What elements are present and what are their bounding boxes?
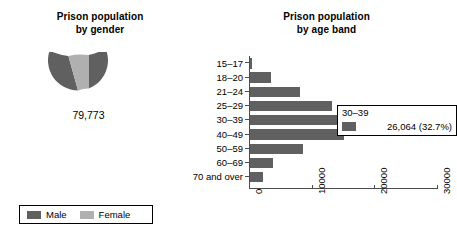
x-tick xyxy=(374,185,375,189)
tooltip-title: 30–39 xyxy=(342,107,368,118)
gender-donut-chart: 79,773 xyxy=(22,52,155,185)
bar-tooltip: 30–39 26,064 (32.7%) xyxy=(337,105,457,136)
x-axis-line xyxy=(249,188,437,189)
gender-chart-title: Prison population by gender xyxy=(0,11,200,36)
tooltip-swatch xyxy=(342,122,356,131)
x-tick xyxy=(437,185,438,189)
bar[interactable] xyxy=(250,87,300,97)
age-chart-title-line2: by age band xyxy=(196,24,457,37)
category-tick xyxy=(245,176,249,177)
gender-chart-title-line1: Prison population xyxy=(57,11,144,22)
category-tick xyxy=(245,119,249,120)
x-tick xyxy=(249,185,250,189)
x-tick-label: 20000 xyxy=(378,168,389,194)
category-label: 60–69 xyxy=(217,156,243,169)
gender-legend: Male Female xyxy=(19,205,153,224)
x-tick-label: 10000 xyxy=(316,168,327,194)
bar[interactable] xyxy=(250,58,252,68)
bar[interactable] xyxy=(250,129,344,139)
legend-label-male: Male xyxy=(46,209,67,220)
category-label: 40–49 xyxy=(217,128,243,141)
category-tick xyxy=(245,162,249,163)
category-label: 25–29 xyxy=(217,99,243,112)
category-label: 50–59 xyxy=(217,142,243,155)
category-label: 15–17 xyxy=(217,57,243,70)
category-label: 21–24 xyxy=(217,85,243,98)
x-tick xyxy=(312,185,313,189)
category-tick xyxy=(245,105,249,106)
x-tick-label: 0 xyxy=(253,189,264,194)
donut-center-value: 79,773 xyxy=(22,109,155,121)
bar[interactable] xyxy=(250,144,303,154)
age-chart-title: Prison population by age band xyxy=(196,11,457,36)
gender-chart-panel: Prison population by gender 79,773 Male … xyxy=(0,0,200,243)
legend-swatch-female xyxy=(80,211,94,219)
category-tick xyxy=(245,77,249,78)
legend-swatch-male xyxy=(27,211,41,219)
category-label: 70 and over xyxy=(193,170,243,183)
bar[interactable] xyxy=(250,158,273,168)
age-chart-title-line1: Prison population xyxy=(283,11,370,22)
category-label: 30–39 xyxy=(217,113,243,126)
bar[interactable] xyxy=(250,72,271,82)
gender-chart-title-line2: by gender xyxy=(0,24,200,37)
age-chart-panel: Prison population by age band 15–1718–20… xyxy=(196,0,457,243)
x-tick-label: 30000 xyxy=(441,168,452,194)
category-tick xyxy=(245,62,249,63)
legend-label-female: Female xyxy=(99,209,131,220)
category-tick xyxy=(245,148,249,149)
bar[interactable] xyxy=(250,101,332,111)
legend-item-female[interactable]: Female xyxy=(80,209,131,220)
age-bar-plot-area: 15–1718–2021–2425–2930–3940–4950–5960–69… xyxy=(249,56,437,189)
tooltip-value: 26,064 (32.7%) xyxy=(362,121,452,132)
bar[interactable] xyxy=(250,172,263,182)
category-label: 18–20 xyxy=(217,71,243,84)
category-tick xyxy=(245,134,249,135)
category-tick xyxy=(245,91,249,92)
legend-item-male[interactable]: Male xyxy=(27,209,67,220)
